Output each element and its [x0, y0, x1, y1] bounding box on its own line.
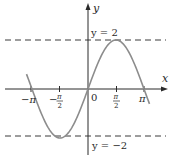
tick-label-neg-pi: −π: [21, 94, 36, 105]
tick-label-numerator: π: [113, 93, 119, 101]
tick-label-denominator: 2: [58, 102, 62, 110]
lower-bound-label: y = −2: [91, 140, 127, 151]
upper-bound-label: y = 2: [90, 27, 118, 38]
origin-label: 0: [91, 92, 97, 103]
y-axis-arrow-icon: [86, 3, 91, 10]
tick-label-pi-half: π 2: [113, 93, 121, 110]
tick-label-pi: π: [138, 93, 146, 104]
tick-label-neg-pi-half: − π 2: [49, 93, 63, 110]
y-axis-label: y: [92, 2, 100, 15]
x-axis-arrow-icon: [161, 87, 168, 92]
x-axis-label: x: [162, 72, 169, 85]
tick-label-denominator: 2: [114, 102, 118, 110]
sine-graph: y x y = 2 y = −2 0 −π − π 2 π 2 π: [0, 0, 170, 157]
tick-label-numerator: π: [56, 93, 62, 101]
